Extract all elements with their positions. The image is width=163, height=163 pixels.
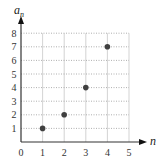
x-axis-arrow-icon (139, 139, 147, 145)
x-tick-label: 3 (83, 147, 88, 158)
x-axis-label: n (150, 134, 156, 148)
y-axis-label: an (14, 3, 24, 19)
y-tick-label: 7 (12, 41, 17, 52)
scatter-chart: 01234512345678 an n (0, 0, 163, 163)
y-tick-label: 4 (12, 82, 17, 93)
data-points (40, 44, 110, 131)
y-tick-label: 5 (12, 69, 17, 80)
data-point (105, 44, 111, 50)
x-tick-label: 5 (127, 147, 132, 158)
data-point (83, 85, 89, 91)
axes (18, 16, 147, 145)
grid (21, 33, 129, 142)
x-tick-label: 4 (105, 147, 110, 158)
data-point (61, 112, 67, 118)
x-tick-label: 0 (19, 147, 24, 158)
y-tick-label: 2 (12, 109, 17, 120)
x-tick-label: 2 (62, 147, 67, 158)
y-tick-label: 1 (12, 123, 17, 134)
y-tick-label: 3 (12, 96, 17, 107)
x-tick-label: 1 (40, 147, 45, 158)
y-tick-label: 8 (12, 28, 17, 39)
y-tick-label: 6 (12, 55, 17, 66)
tick-labels: 01234512345678 (12, 28, 132, 158)
data-point (40, 126, 46, 132)
